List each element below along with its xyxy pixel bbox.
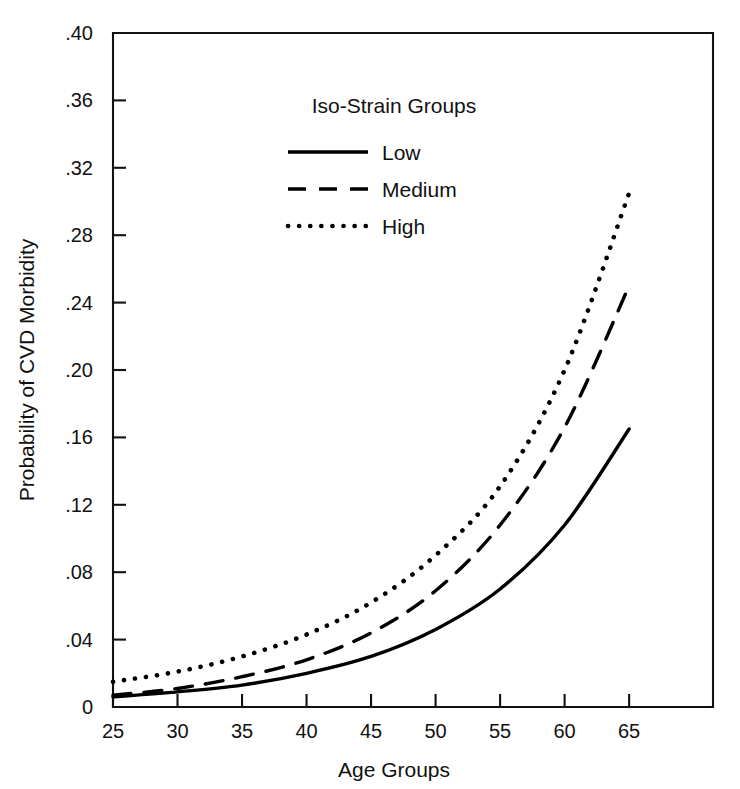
y-tick-label: .24: [65, 292, 93, 314]
legend-label-medium: Medium: [382, 178, 457, 201]
legend-label-high: High: [382, 215, 425, 238]
legend-title: Iso-Strain Groups: [312, 94, 477, 117]
y-tick-label: .36: [65, 89, 93, 111]
x-tick-label: 45: [360, 720, 382, 742]
y-tick-label: .12: [65, 494, 93, 516]
y-axis-title: Probability of CVD Morbidity: [15, 238, 38, 501]
x-tick-label: 40: [295, 720, 317, 742]
x-tick-label: 25: [102, 720, 124, 742]
x-axis-tick-labels: 253035404550556065: [102, 720, 640, 742]
chart-background: [0, 0, 740, 789]
chart-figure: 0.04.08.12.16.20.24.28.32.36.40 25303540…: [0, 0, 740, 789]
x-axis-title: Age Groups: [338, 758, 450, 781]
cvd-morbidity-line-chart: 0.04.08.12.16.20.24.28.32.36.40 25303540…: [0, 0, 740, 789]
x-tick-label: 55: [489, 720, 511, 742]
x-tick-label: 50: [424, 720, 446, 742]
x-tick-label: 60: [553, 720, 575, 742]
x-tick-label: 65: [618, 720, 640, 742]
y-tick-label: 0: [82, 696, 93, 718]
x-tick-label: 35: [231, 720, 253, 742]
y-tick-label: .28: [65, 224, 93, 246]
y-tick-label: .08: [65, 561, 93, 583]
legend-label-low: Low: [382, 141, 421, 164]
y-tick-label: .20: [65, 359, 93, 381]
x-tick-label: 30: [166, 720, 188, 742]
y-tick-label: .16: [65, 426, 93, 448]
y-tick-label: .32: [65, 157, 93, 179]
y-tick-label: .04: [65, 629, 93, 651]
y-tick-label: .40: [65, 22, 93, 44]
